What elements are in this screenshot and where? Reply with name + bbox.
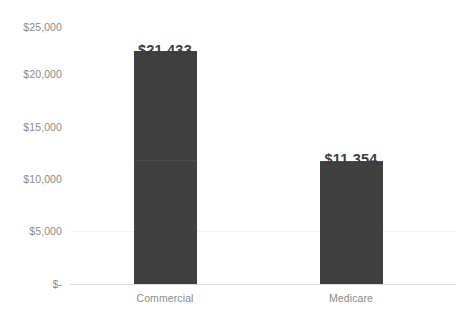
bar-commercial[interactable] [134,51,197,285]
x-axis-label-medicare: Medicare [329,292,373,304]
bar-medicare[interactable] [320,161,383,285]
value-label-commercial: $21,433 [138,42,192,58]
y-axis-tick-zero: $- [0,278,62,290]
plot-area: $21,433 $11,354 [70,12,456,285]
y-axis-tick-25000: $25,000 [0,21,62,33]
y-axis-tick-15000: $15,000 [0,121,62,133]
bar-chart: $25,000 $20,000 $15,000 $10,000 $5,000 $… [0,0,460,323]
y-axis-tick-10000: $10,000 [0,173,62,185]
bar-band-commercial [134,160,197,161]
y-axis-tick-20000: $20,000 [0,68,62,80]
y-axis-tick-5000: $5,000 [0,225,62,237]
x-axis-line [70,284,456,285]
value-label-medicare: $11,354 [324,151,377,167]
x-axis-label-commercial: Commercial [136,292,193,304]
